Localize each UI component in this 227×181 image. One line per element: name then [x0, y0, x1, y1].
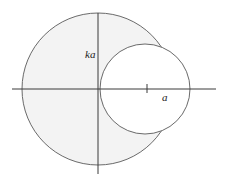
diagram-canvas: [0, 0, 227, 181]
label-ka: ka: [85, 49, 95, 60]
label-a: a: [162, 92, 168, 103]
circle-diagram: ka a: [0, 0, 227, 181]
